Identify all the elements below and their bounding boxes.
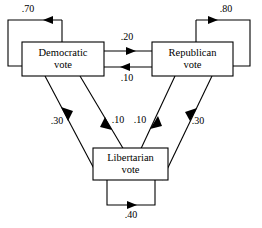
node-democratic-vote[interactable]: Democratic vote — [22, 42, 104, 76]
node-libertarian-vote[interactable]: Libertarian vote — [93, 148, 168, 180]
edge-rep-to-lib: .10 — [134, 76, 175, 155]
node-democratic-vote-label-line2: vote — [54, 59, 72, 70]
edge-dem-to-rep: .20 — [104, 31, 152, 55]
edge-label-rep-to-dem: .10 — [121, 72, 134, 83]
node-libertarian-vote-label-line1: Libertarian — [107, 152, 154, 163]
edge-lib-self-arrowhead — [127, 201, 137, 209]
edge-lib-self-path — [107, 180, 155, 205]
edge-label-dem-to-lib: .10 — [112, 114, 125, 125]
edge-lib-self: .40 — [107, 180, 155, 220]
edge-label-lib-self: .40 — [125, 209, 138, 220]
edge-rep-to-dem: .10 — [104, 63, 152, 83]
node-democratic-vote-label-line1: Democratic — [39, 47, 88, 58]
edge-rep-self-arrowhead — [208, 16, 218, 24]
edge-label-dem-to-rep: .20 — [121, 31, 134, 42]
node-libertarian-vote-label-line2: vote — [121, 164, 139, 175]
edge-lib-to-dem: .30 — [45, 76, 100, 180]
edge-lib-to-rep-path — [162, 76, 212, 180]
edge-label-lib-to-dem: .30 — [51, 115, 64, 126]
edge-lib-to-rep: .30 — [162, 76, 212, 180]
edge-dem-to-rep-arrowhead — [126, 47, 136, 55]
edge-lib-to-dem-path — [45, 76, 100, 180]
edge-label-rep-to-lib: .10 — [134, 114, 147, 125]
edge-dem-to-lib: .10 — [80, 76, 127, 155]
edge-label-dem-self: .70 — [22, 3, 35, 14]
edge-rep-to-dem-arrowhead — [120, 63, 130, 71]
edge-rep-to-lib-arrowhead — [150, 116, 162, 129]
node-republican-vote-label-line1: Republican — [169, 47, 218, 58]
node-republican-vote[interactable]: Republican vote — [152, 42, 233, 76]
edge-dem-to-lib-arrowhead — [100, 117, 112, 130]
diagram-canvas: .70 .80 .40 .20 .10 — [0, 0, 262, 228]
markov-transition-diagram: .70 .80 .40 .20 .10 — [0, 0, 262, 228]
node-republican-vote-label-line2: vote — [183, 59, 201, 70]
edge-dem-self-arrowhead — [43, 16, 53, 24]
edge-label-rep-self: .80 — [220, 3, 233, 14]
edge-label-lib-to-rep: .30 — [192, 115, 205, 126]
